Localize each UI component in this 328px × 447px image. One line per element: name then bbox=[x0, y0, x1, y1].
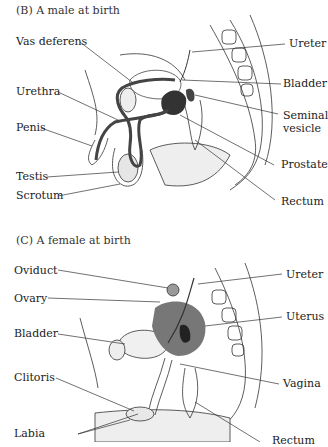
label-prostate: Prostate bbox=[281, 159, 328, 171]
label-rectum-female: Rectum bbox=[272, 435, 315, 447]
label-rectum: Rectum bbox=[281, 196, 324, 208]
label-urethra: Urethra bbox=[16, 86, 60, 98]
male-anatomy-panel: (B) A male at birth bbox=[0, 0, 328, 218]
label-ureter: Ureter bbox=[289, 38, 326, 50]
label-seminal-vesicle-line2: vesicle bbox=[283, 123, 321, 135]
label-oviduct: Oviduct bbox=[14, 265, 57, 277]
label-uterus: Uterus bbox=[286, 311, 324, 323]
label-testis: Testis bbox=[16, 171, 48, 183]
female-anatomy-panel: (C) A female at birth bbox=[0, 218, 328, 442]
label-seminal-vesicle: Seminal bbox=[283, 110, 328, 122]
label-clitoris: Clitoris bbox=[14, 372, 55, 384]
label-vagina: Vagina bbox=[283, 378, 321, 390]
label-penis: Penis bbox=[16, 122, 46, 134]
label-ureter-female: Ureter bbox=[286, 269, 323, 281]
label-bladder-female: Bladder bbox=[14, 328, 58, 340]
label-labia: Labia bbox=[14, 428, 45, 440]
label-vas-deferens: Vas deferens bbox=[16, 36, 87, 48]
label-bladder: Bladder bbox=[283, 78, 327, 90]
label-ovary: Ovary bbox=[14, 293, 47, 305]
male-anatomy-illustration bbox=[0, 0, 328, 218]
label-scrotum: Scrotum bbox=[16, 190, 64, 202]
